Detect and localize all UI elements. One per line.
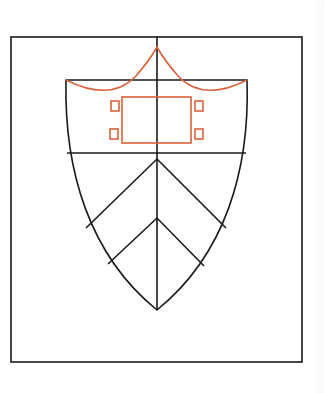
small-square xyxy=(195,129,203,139)
chevron-upper xyxy=(86,159,226,228)
chevron-lower xyxy=(108,218,204,266)
small-square xyxy=(110,129,118,139)
small-square xyxy=(111,101,119,111)
shield-diagram xyxy=(0,0,324,393)
small-square xyxy=(195,101,203,111)
